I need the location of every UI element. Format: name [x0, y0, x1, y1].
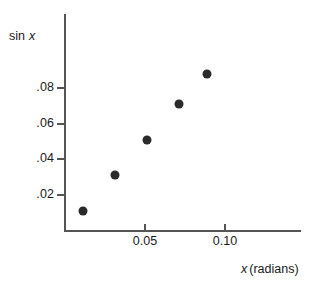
- y-tick-label-text: .02: [16, 188, 54, 201]
- y-axis-label: sinx: [9, 29, 35, 43]
- data-point: [174, 99, 183, 108]
- x-axis-label: x(radians): [241, 262, 299, 276]
- x-tick-label: 0.05: [115, 234, 175, 248]
- x-tick-label: 0.10: [195, 234, 255, 248]
- y-tick-label: .04: [10, 152, 54, 165]
- x-tick-mark: [224, 224, 226, 232]
- x-tick-mark: [144, 224, 146, 232]
- scatter-plot-figure: sinx x(radians) .02.04.06.08 0.050.10: [0, 0, 321, 289]
- y-tick-mark: [57, 123, 65, 125]
- x-axis-label-variable: x: [241, 262, 247, 276]
- y-tick-label-text: .06: [16, 117, 54, 130]
- data-point: [142, 135, 151, 144]
- y-axis-label-prefix: sin: [9, 29, 25, 43]
- y-tick-label: .08: [10, 81, 54, 94]
- y-tick-mark: [57, 158, 65, 160]
- x-axis-label-rest: (radians): [249, 262, 298, 276]
- y-tick-label-text: .04: [16, 152, 54, 165]
- y-tick-label: .06: [10, 117, 54, 130]
- y-tick-label-text: .08: [16, 81, 54, 94]
- data-point: [203, 70, 212, 79]
- data-point: [78, 207, 87, 216]
- data-point: [110, 171, 119, 180]
- y-tick-label: .02: [10, 188, 54, 201]
- y-axis-label-variable: x: [29, 29, 35, 43]
- x-axis-line: [64, 230, 301, 232]
- y-tick-mark: [57, 87, 65, 89]
- y-tick-mark: [57, 194, 65, 196]
